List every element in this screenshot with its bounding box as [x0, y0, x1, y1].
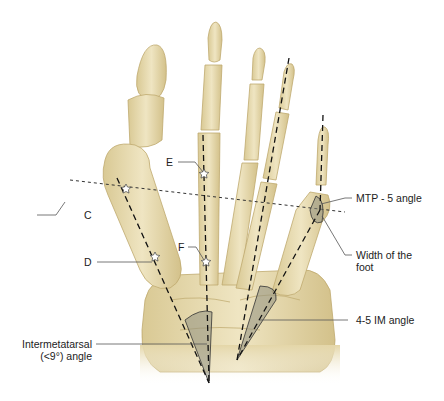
label-intermetatarsal-angle: Intermetatarsal (<9°) angle	[22, 338, 92, 362]
label-im45-angle: 4-5 IM angle	[356, 314, 414, 326]
label-e: E	[166, 156, 173, 168]
label-width-of-foot: Width of the foot	[356, 249, 412, 273]
label-intermetatarsal-line2: (<9°) angle	[22, 350, 92, 362]
label-f: F	[178, 241, 184, 253]
label-width-line1: Width of the	[356, 249, 412, 261]
label-intermetatarsal-line1: Intermetatarsal	[22, 338, 92, 350]
label-d: D	[84, 256, 92, 268]
second-toe	[198, 22, 222, 285]
leader-width	[322, 216, 352, 255]
label-mtp5-angle: MTP - 5 angle	[356, 192, 422, 204]
leader-c	[37, 202, 65, 215]
label-width-line2: foot	[356, 261, 412, 273]
label-c: C	[84, 209, 92, 221]
